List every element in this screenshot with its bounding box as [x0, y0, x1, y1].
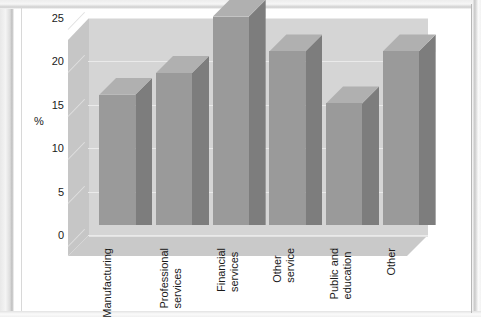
bar-front-face: [99, 95, 135, 225]
bar-front-face: [269, 51, 305, 225]
y-tick-label-0: 0: [58, 230, 64, 241]
x-tick-label-3: Other service: [271, 248, 296, 283]
bar-4: [326, 86, 362, 225]
bar-side-face: [305, 34, 322, 225]
x-tick-label-0: Manufacturing: [101, 248, 114, 317]
y-axis-ticks: 2520151050: [18, 18, 64, 246]
bar-front-face: [326, 103, 362, 225]
x-tick-label-2: Financial services: [215, 248, 240, 292]
bar-side-face: [249, 0, 266, 225]
bar-1: [156, 56, 192, 225]
bar-side-face: [135, 78, 152, 225]
y-tick-label-10: 10: [52, 143, 64, 154]
chart-page: 2520151050 % ManufacturingProfessional s…: [0, 0, 481, 317]
bar-3: [269, 34, 305, 225]
bar-front-face: [383, 51, 419, 225]
bar-front-face: [213, 17, 249, 225]
bar-side-face: [419, 34, 436, 225]
bar-front-face: [156, 73, 192, 225]
bar-side-face: [362, 86, 379, 225]
bar-5: [383, 34, 419, 225]
chart-left-wall: [68, 18, 89, 256]
gridline-0: [88, 235, 428, 236]
x-tick-label-1: Professional services: [158, 248, 183, 309]
x-tick-label-4: Public and education: [328, 248, 353, 299]
y-tick-label-20: 20: [52, 56, 64, 67]
y-tick-label-25: 25: [52, 13, 64, 24]
bar-0: [99, 78, 135, 225]
x-axis-ticks: ManufacturingProfessional servicesFinanc…: [68, 248, 468, 314]
y-axis-label: %: [34, 115, 44, 127]
bar-side-face: [192, 56, 209, 225]
bar-2: [213, 0, 249, 225]
y-tick-label-15: 15: [52, 100, 64, 111]
y-tick-label-5: 5: [58, 187, 64, 198]
plot-area: [68, 18, 428, 246]
x-tick-label-5: Other: [385, 248, 398, 276]
bar-chart: 2520151050 % ManufacturingProfessional s…: [0, 0, 481, 317]
